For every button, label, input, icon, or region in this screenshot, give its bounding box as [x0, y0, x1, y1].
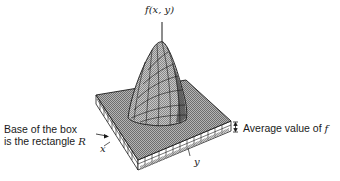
- base-annotation-line2: is the rectangle R: [4, 135, 86, 148]
- axis-label-f: f(x, y): [145, 4, 174, 15]
- surface-peak: [128, 42, 187, 126]
- avg-height-marker: [233, 122, 238, 132]
- base-arrow: [96, 134, 109, 139]
- function-symbol: f: [325, 123, 329, 134]
- base-annotation-line1: Base of the box: [4, 123, 77, 135]
- avg-annotation-text: Average value of: [243, 122, 325, 134]
- axis-label-x: x: [100, 143, 106, 154]
- base-annotation-text: is the rectangle: [4, 135, 78, 147]
- rectangle-symbol: R: [78, 136, 86, 147]
- axis-label-y: y: [194, 156, 200, 167]
- avg-annotation: Average value of f: [243, 122, 328, 135]
- average-value-diagram: f(x, y) Base of the box is the rectangle…: [0, 0, 340, 181]
- surface-plot: [0, 0, 340, 181]
